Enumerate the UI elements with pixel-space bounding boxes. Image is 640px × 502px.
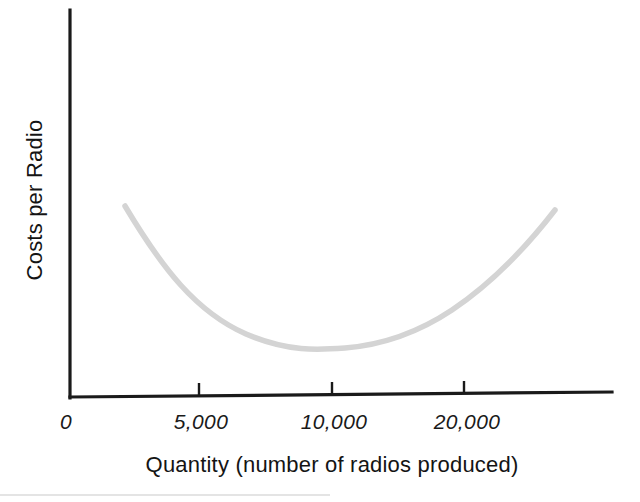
y-axis-title: Costs per Radio xyxy=(22,120,47,281)
chart-canvas: 0 5,000 10,000 20,000 Quantity (number o… xyxy=(0,0,640,502)
x-axis-title: Quantity (number of radios produced) xyxy=(146,452,519,477)
cost-curve-figure: 0 5,000 10,000 20,000 Quantity (number o… xyxy=(0,0,640,502)
x-tick-label-0: 0 xyxy=(60,410,72,433)
x-tick-label-20000: 20,000 xyxy=(433,410,501,433)
x-tick-label-5000: 5,000 xyxy=(174,410,229,433)
average-cost-curve xyxy=(125,206,555,349)
x-axis-line xyxy=(70,392,612,397)
x-tick-label-10000: 10,000 xyxy=(301,410,368,433)
